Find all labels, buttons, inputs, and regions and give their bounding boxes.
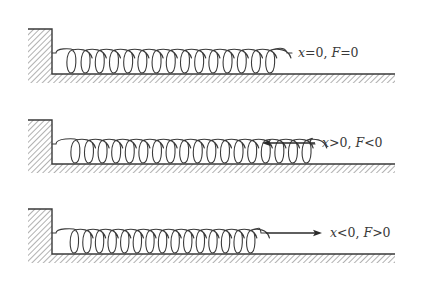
spring-coil (52, 138, 327, 163)
force-variable: F (363, 225, 372, 240)
displacement-variable: x (322, 135, 329, 150)
displacement-variable: x (330, 225, 337, 240)
force-relation: >0 (372, 225, 390, 240)
force-variable: F (331, 45, 340, 60)
label-equilibrium: x=0, F=0 (298, 47, 359, 60)
floor-hatch (52, 254, 395, 263)
label-compressed: x<0, F>0 (330, 227, 391, 240)
floor-hatch (52, 74, 395, 83)
spring-coil (52, 48, 292, 73)
wall-hatch (28, 120, 52, 173)
displacement-relation: =0, (305, 45, 327, 60)
displacement-variable: x (298, 45, 305, 60)
displacement-relation: >0, (329, 135, 351, 150)
label-stretched: x>0, F<0 (322, 137, 383, 150)
spring-coil (52, 228, 269, 253)
force-relation: <0 (364, 135, 382, 150)
wall-hatch (28, 209, 52, 263)
force-relation: =0 (340, 45, 358, 60)
displacement-relation: <0, (337, 225, 359, 240)
floor-hatch (52, 164, 395, 173)
wall-hatch (28, 29, 52, 83)
force-variable: F (355, 135, 364, 150)
